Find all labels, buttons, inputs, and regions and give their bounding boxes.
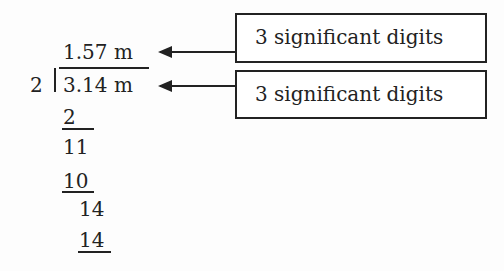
division-bracket bbox=[54, 68, 56, 92]
step-1: 2 bbox=[63, 106, 76, 128]
division-bar bbox=[59, 67, 149, 69]
arrow-to-quotient bbox=[160, 51, 236, 53]
step-5-underline bbox=[78, 251, 111, 253]
dividend: 3.14 m bbox=[63, 74, 133, 96]
step-2: 11 bbox=[63, 136, 88, 158]
step-5: 14 bbox=[79, 229, 104, 251]
step-1-underline bbox=[62, 128, 94, 130]
step-3: 10 bbox=[63, 170, 88, 192]
annotation-label: 3 significant digits bbox=[255, 82, 443, 106]
arrow-to-dividend bbox=[160, 85, 236, 87]
divisor: 2 bbox=[30, 74, 43, 96]
quotient: 1.57 m bbox=[63, 41, 133, 63]
annotation-label: 3 significant digits bbox=[255, 25, 443, 49]
annotation-box-dividend: 3 significant digits bbox=[235, 70, 487, 119]
step-3-underline bbox=[62, 191, 94, 193]
annotation-box-quotient: 3 significant digits bbox=[235, 13, 487, 63]
step-4: 14 bbox=[79, 198, 104, 220]
